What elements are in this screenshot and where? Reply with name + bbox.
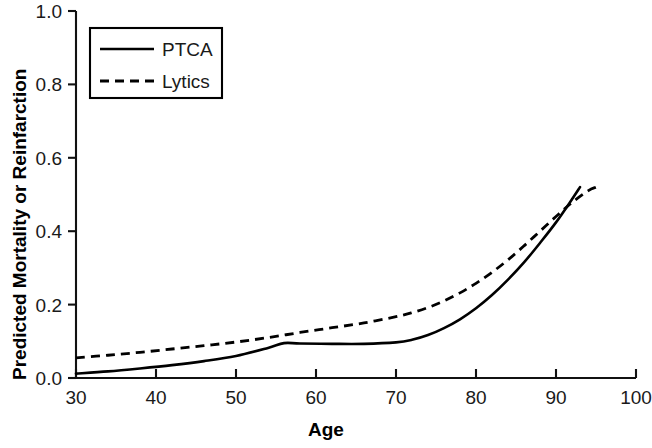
legend: PTCA Lytics xyxy=(90,28,222,98)
x-axis-title: Age xyxy=(308,419,344,440)
y-tick-label: 0.8 xyxy=(36,74,62,95)
x-tick-label: 70 xyxy=(385,387,406,408)
y-tick-label: 0.2 xyxy=(36,295,62,316)
legend-label-lytics: Lytics xyxy=(162,71,210,92)
y-tick-label: 1.0 xyxy=(36,1,62,22)
y-tick-label: 0.4 xyxy=(36,221,63,242)
x-tick-label: 30 xyxy=(65,387,86,408)
y-axis-title: Predicted Mortality or Reinfarction xyxy=(9,69,30,380)
x-tick-label: 100 xyxy=(620,387,652,408)
chart-figure: Predicted Mortality or Reinfarction Age … xyxy=(0,0,652,448)
x-tick-label: 40 xyxy=(145,387,166,408)
x-axis-ticks: 30405060708090100 xyxy=(65,369,651,408)
x-tick-label: 60 xyxy=(305,387,326,408)
y-tick-label: 0.0 xyxy=(36,368,62,389)
x-tick-label: 50 xyxy=(225,387,246,408)
series-line-ptca xyxy=(76,187,580,373)
y-tick-label: 0.6 xyxy=(36,148,62,169)
y-axis-ticks: 0.00.20.40.60.81.0 xyxy=(36,1,76,389)
legend-label-ptca: PTCA xyxy=(162,39,213,60)
line-chart: Predicted Mortality or Reinfarction Age … xyxy=(0,0,652,448)
series-line-lytics xyxy=(76,187,596,358)
x-tick-label: 80 xyxy=(465,387,486,408)
x-tick-label: 90 xyxy=(545,387,566,408)
